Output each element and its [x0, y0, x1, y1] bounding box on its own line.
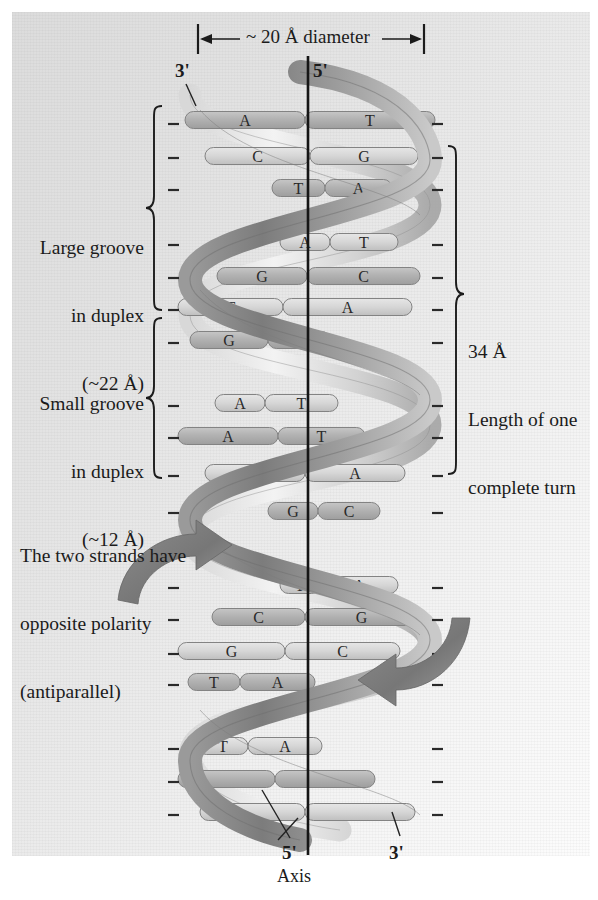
base-letter-right: T [365, 112, 375, 129]
base-pair-rung: AT [215, 395, 338, 412]
antiparallel-label: The two strands have opposite polarity (… [20, 500, 240, 749]
base-letter-right: A [349, 465, 361, 482]
base-letter-right: C [344, 503, 355, 520]
large-groove-line-2: in duplex [16, 305, 144, 328]
bracket-turn-length [448, 146, 464, 474]
bottom-left-prime-label: 5' [282, 842, 297, 864]
base-letter-right: T [359, 234, 369, 251]
rung-right-base [305, 804, 415, 821]
base-pair-rung: GC [217, 268, 420, 285]
base-letter-left: A [222, 428, 234, 445]
base-letter-left: C [253, 609, 264, 626]
base-pair-rung: GC [268, 503, 380, 520]
base-letter-right: A [279, 738, 291, 755]
base-letter-left: A [299, 234, 311, 251]
base-letter-right: C [358, 268, 369, 285]
base-letter-left: G [287, 503, 299, 520]
base-letter-left: A [234, 395, 246, 412]
base-letter-right: C [337, 643, 348, 660]
base-letter-left: G [223, 332, 235, 349]
base-letter-right: G [356, 609, 368, 626]
antiparallel-line-3: (antiparallel) [20, 681, 240, 704]
bracket-large-groove [146, 106, 162, 310]
base-letter-right: A [272, 674, 284, 691]
antiparallel-line-2: opposite polarity [20, 613, 240, 636]
turn-length-label: 34 Å Length of one complete turn [468, 296, 592, 545]
base-letter-left: A [239, 112, 251, 129]
top-right-prime-label: 5' [313, 60, 328, 82]
small-groove-line-1: Small groove [16, 393, 144, 416]
base-letter-right: T [297, 395, 307, 412]
turn-length-line-2: Length of one [468, 409, 592, 432]
top-left-prime-label: 3' [175, 60, 190, 82]
base-letter-left: G [256, 268, 268, 285]
base-letter-right: G [358, 148, 370, 165]
diameter-label: ~ 20 Å diameter [246, 26, 370, 48]
turn-length-line-1: 34 Å [468, 341, 592, 364]
small-groove-line-2: in duplex [16, 461, 144, 484]
dna-helix-figure: ATCGTAATGCTAGCATATTAGCTACGGCTATA [0, 0, 598, 900]
turn-length-line-3: complete turn [468, 477, 592, 500]
rung-right-base [275, 771, 375, 788]
large-groove-line-1: Large groove [16, 237, 144, 260]
bracket-small-groove [146, 318, 162, 478]
antiparallel-line-1: The two strands have [20, 545, 240, 568]
axis-label: Axis [277, 866, 311, 887]
base-letter-right: A [342, 299, 354, 316]
base-letter-left: T [294, 180, 304, 197]
bottom-right-prime-label: 3' [389, 842, 404, 864]
base-letter-right: T [317, 428, 327, 445]
base-pair-rung: AT [280, 234, 398, 251]
